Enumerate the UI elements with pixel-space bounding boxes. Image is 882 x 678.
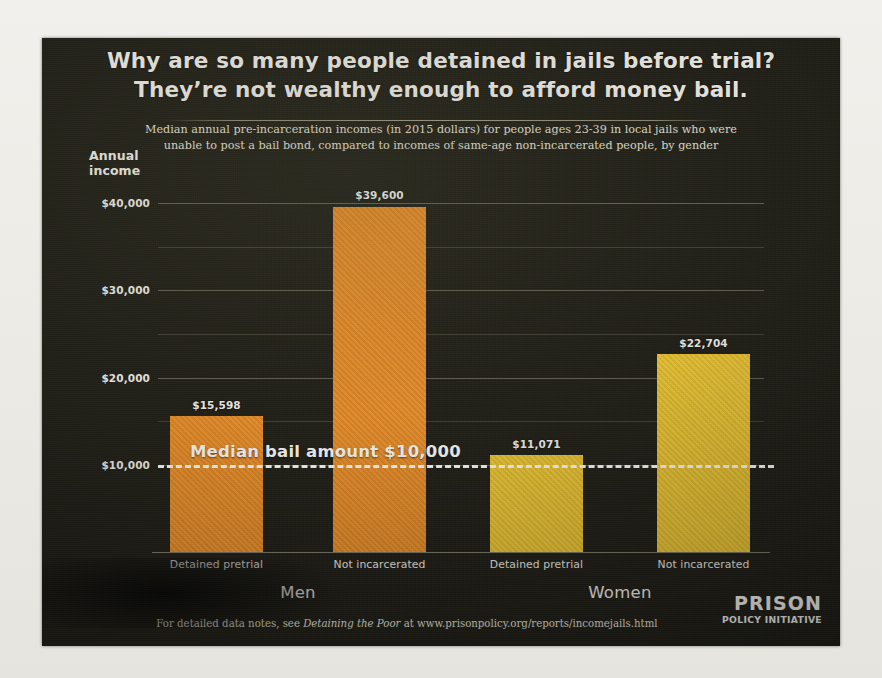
x-axis-category-label: Not incarcerated [631, 558, 776, 571]
x-axis-line [152, 552, 770, 553]
y-axis-tick-label: $20,000 [60, 372, 150, 384]
prison-policy-initiative-logo: PRISON POLICY INITIATIVE [722, 594, 822, 626]
bar-fill [170, 416, 263, 552]
gridline-minor [158, 334, 764, 335]
x-axis-category-label: Detained pretrial [144, 558, 289, 571]
bar-men-not-incarcerated[interactable] [333, 207, 426, 553]
bar-fill [490, 455, 583, 552]
footer-suffix: at www.prisonpolicy.org/reports/incomeja… [400, 618, 657, 629]
footer-source-note: For detailed data notes, see Detaining t… [42, 618, 772, 629]
y-axis-tick-label: $10,000 [60, 459, 150, 471]
infographic-poster: Why are so many people detained in jails… [42, 38, 840, 646]
median-bail-annotation-label: Median bail amount $10,000 [190, 442, 461, 461]
bar-value-label: $22,704 [657, 337, 750, 349]
bar-value-label: $11,071 [490, 438, 583, 450]
gridline-major [158, 290, 764, 291]
x-axis-group-label-men: Men [208, 583, 388, 602]
logo-primary-text: PRISON [722, 594, 822, 613]
bar-women-not-incarcerated[interactable] [657, 354, 750, 552]
y-axis-tick-label: $40,000 [60, 197, 150, 209]
scan-page-background: Why are so many people detained in jails… [0, 0, 882, 678]
chart-plot-area: $10,000$20,000$30,000$40,000$15,598Detai… [42, 38, 840, 646]
x-axis-group-label-women: Women [530, 583, 710, 602]
bar-fill [657, 354, 750, 552]
y-axis-tick-label: $30,000 [60, 284, 150, 296]
bar-men-detained-pretrial[interactable] [170, 416, 263, 552]
bar-women-detained-pretrial[interactable] [490, 455, 583, 552]
median-bail-reference-line [158, 465, 774, 468]
footer-report-title: Detaining the Poor [303, 618, 400, 629]
logo-secondary-text: POLICY INITIATIVE [722, 614, 822, 626]
bar-value-label: $39,600 [333, 189, 426, 201]
bar-fill [333, 207, 426, 553]
bar-value-label: $15,598 [170, 399, 263, 411]
gridline-minor [158, 247, 764, 248]
x-axis-category-label: Not incarcerated [307, 558, 452, 571]
gridline-major [158, 203, 764, 204]
footer-prefix: For detailed data notes, see [156, 618, 303, 629]
x-axis-category-label: Detained pretrial [464, 558, 609, 571]
